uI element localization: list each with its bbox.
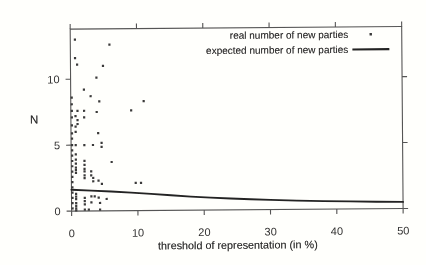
figure-scan: 010203040500510 N threshold of represent… <box>0 0 426 265</box>
scatter-point <box>71 176 73 178</box>
scatter-point <box>71 170 73 172</box>
scatter-point <box>143 100 145 102</box>
scatter-point <box>106 198 108 200</box>
scatter-point <box>71 197 73 199</box>
scatter-point <box>71 181 73 183</box>
scatter-point <box>71 192 73 194</box>
scatter-point <box>83 116 85 118</box>
scatter-point <box>108 44 110 46</box>
scatter-point <box>97 132 99 134</box>
scatter-point <box>102 65 104 67</box>
scatter-point <box>71 132 73 134</box>
plot-wrap: 010203040500510 N threshold of represent… <box>0 0 426 265</box>
scatter-point <box>90 195 92 197</box>
scatter-point <box>75 131 77 133</box>
scatter-point <box>83 164 85 166</box>
scatter-point <box>83 89 85 91</box>
scatter-point <box>83 168 85 170</box>
scatter-point <box>75 193 77 195</box>
scatter-point <box>76 110 78 112</box>
scatter-point <box>75 169 77 171</box>
scatter-point <box>92 177 94 179</box>
x-tick-label: 40 <box>331 225 343 237</box>
y-tick-label: 0 <box>54 205 60 217</box>
scatter-point <box>90 170 92 172</box>
scatter-point <box>92 144 94 146</box>
legend-label-real: real number of new parties <box>117 28 348 44</box>
scatter-point <box>101 183 103 185</box>
scatter-point <box>76 64 78 66</box>
scatter-point <box>71 202 73 204</box>
scatter-point <box>71 149 73 151</box>
scatter-point <box>98 100 100 102</box>
scatter-point <box>90 174 92 176</box>
scatter-point <box>83 160 85 162</box>
scatter-point <box>75 209 77 211</box>
scatter-point <box>71 144 73 146</box>
scatter-point <box>99 208 101 210</box>
scatter-point <box>92 180 94 182</box>
scatter-point <box>75 207 77 209</box>
scatter-point <box>71 207 73 209</box>
scatter-point <box>100 146 102 148</box>
scatter-point <box>75 162 77 164</box>
scatter-point <box>71 124 73 126</box>
scatter-point <box>135 182 137 184</box>
scatter-point <box>71 103 73 105</box>
legend-label-expected: expected number of new parties <box>117 42 348 58</box>
y-tick-label: 10 <box>47 73 59 85</box>
scatter-point <box>94 195 96 197</box>
expected-curve <box>71 187 403 204</box>
scatter-point <box>74 126 76 128</box>
scatter-point <box>75 198 77 200</box>
x-tick-label: 30 <box>265 226 277 238</box>
scatter-point <box>76 123 78 125</box>
scatter-point <box>71 137 73 139</box>
scatter-point <box>75 205 77 207</box>
scatter-point <box>83 144 85 146</box>
x-tick-label: 50 <box>397 224 409 236</box>
scatter-point <box>111 161 113 163</box>
scatter-point <box>71 165 73 167</box>
y-tick-label: 5 <box>54 139 60 151</box>
scatter-point <box>88 209 90 211</box>
scatter-point <box>76 119 78 121</box>
scatter-point <box>74 57 76 59</box>
legend: real number of new parties expected numb… <box>117 28 348 59</box>
scatter-point <box>83 170 85 172</box>
scatter-point <box>71 116 73 118</box>
scatter-point <box>71 110 73 112</box>
scatter-point <box>75 195 77 197</box>
scatter-point <box>75 153 77 155</box>
scatter-point <box>99 202 101 204</box>
x-tick-label: 20 <box>198 226 210 238</box>
scatter-point <box>84 203 86 205</box>
scatter-point <box>100 142 102 144</box>
scatter-point <box>95 77 97 79</box>
legend-dot-marker-icon <box>370 33 372 35</box>
x-axis-title: threshold of representation (in %) <box>108 238 368 252</box>
scatter-point <box>75 202 77 204</box>
scatter-point <box>130 109 132 111</box>
scatter-point <box>89 95 91 97</box>
scatter-point <box>75 144 77 146</box>
scatter-point <box>84 197 86 199</box>
scatter-point <box>97 179 99 181</box>
scatter-point <box>75 172 77 174</box>
scatter-point <box>74 39 76 41</box>
scatter-point <box>75 166 77 168</box>
scatter-point <box>71 155 73 157</box>
scatter-point <box>84 200 86 202</box>
scatter-point <box>96 111 98 113</box>
scatter-point <box>84 209 86 211</box>
scatter-point <box>84 177 86 179</box>
scatter-point <box>140 182 142 184</box>
scatter-point <box>71 97 73 99</box>
scatter-point <box>90 201 92 203</box>
scatter-point <box>71 160 73 162</box>
scatter-point <box>98 197 100 199</box>
y-axis-label: N <box>30 113 39 125</box>
scatter-point <box>83 110 85 112</box>
scatter-point <box>75 159 77 161</box>
x-tick-label: 10 <box>132 227 144 239</box>
